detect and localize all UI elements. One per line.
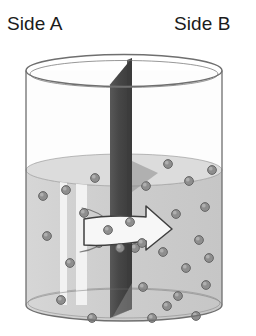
particle-in-arrow-sheen — [105, 227, 109, 231]
particle-side-b-dot-sheen — [209, 167, 213, 171]
particle-in-arrow — [138, 239, 147, 248]
membrane-edge-face — [127, 58, 132, 310]
particle-in-arrow-sheen — [117, 245, 121, 249]
particle-side-b-dot-sheen — [173, 211, 177, 215]
particle-in-arrow — [126, 218, 135, 227]
particle-side-b-dot-sheen — [183, 265, 187, 269]
particle-in-arrow — [116, 244, 125, 253]
particle-side-b-dot-sheen — [132, 245, 136, 249]
particle-side-a — [57, 296, 66, 305]
particle-side-b — [185, 177, 194, 186]
particle-side-b — [174, 292, 183, 301]
particle-side-a — [62, 186, 71, 195]
particle-side-b — [201, 203, 210, 212]
particle-side-b-dot-sheen — [206, 255, 210, 259]
particle-side-b — [182, 264, 191, 273]
particle-side-b-dot-sheen — [186, 178, 190, 182]
particle-side-b — [164, 160, 173, 169]
particle-side-b-dot-sheen — [175, 293, 179, 297]
particle-side-b — [195, 236, 204, 245]
particle-side-a-dot-sheen — [63, 187, 67, 191]
particle-side-a-dot-sheen — [92, 175, 96, 179]
particle-side-a-dot-sheen — [40, 193, 44, 197]
particle-side-b-dot-sheen — [164, 303, 168, 307]
particle-in-arrow-sheen — [127, 219, 131, 223]
particle-side-b — [139, 283, 148, 292]
particle-side-a-dot-sheen — [81, 210, 85, 214]
particle-side-b-dot-sheen — [149, 315, 153, 319]
particle-side-a — [88, 314, 97, 323]
particle-side-b — [172, 210, 181, 219]
particle-side-b-dot-sheen — [196, 237, 200, 241]
particle-side-b-dot-sheen — [160, 249, 164, 253]
glass-highlight-stripe-1 — [60, 162, 67, 305]
particle-side-b-dot-sheen — [140, 284, 144, 288]
particle-side-b — [163, 302, 172, 311]
particle-side-b — [202, 281, 211, 290]
particle-side-a — [43, 232, 52, 241]
beaker-diffusion-illustration — [0, 0, 256, 336]
particle-side-a — [39, 192, 48, 201]
particle-side-a-dot-sheen — [44, 233, 48, 237]
particle-side-a — [80, 209, 89, 218]
particle-side-a — [66, 259, 75, 268]
particle-side-b — [205, 254, 214, 263]
particle-in-arrow — [104, 226, 113, 235]
particle-side-b-dot-sheen — [202, 204, 206, 208]
particle-side-b — [208, 166, 217, 175]
particle-side-b-dot-sheen — [165, 161, 169, 165]
particle-side-b-dot-sheen — [203, 282, 207, 286]
particle-in-arrow-sheen — [139, 240, 143, 244]
particle-side-b — [159, 248, 168, 257]
particle-side-a-dot-sheen — [89, 315, 93, 319]
figure-canvas: Side A Side B — [0, 0, 256, 336]
particle-side-a-dot-sheen — [67, 260, 71, 264]
particle-side-a — [91, 174, 100, 183]
particle-side-a-dot-sheen — [58, 297, 62, 301]
